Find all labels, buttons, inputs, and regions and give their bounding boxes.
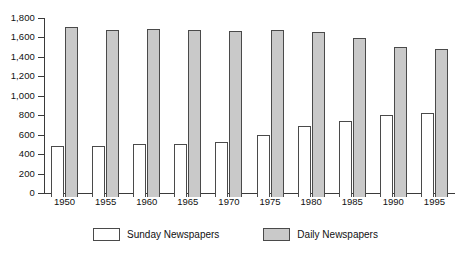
legend-label-sunday: Sunday Newspapers (127, 230, 219, 240)
bar-daily-1975 (271, 30, 284, 197)
bar-sunday-1995 (421, 113, 434, 197)
chart-legend: Sunday NewspapersDaily Newspapers (0, 228, 471, 241)
bar-sunday-1985 (339, 121, 352, 197)
bar-daily-1995 (435, 49, 448, 197)
bar-sunday-1980 (298, 126, 311, 197)
bar-daily-1965 (188, 30, 201, 197)
legend-swatch-sunday (93, 228, 120, 241)
bar-daily-1970 (229, 31, 242, 197)
bar-sunday-1970 (215, 142, 228, 197)
x-axis-label-1985: 1985 (332, 197, 373, 207)
bar-chart: 1,8001,6001,4001,2001,0008006004002000 1… (0, 0, 471, 256)
y-axis-label: 1,600 (11, 32, 35, 42)
bar-sunday-1975 (257, 135, 270, 197)
bar-sunday-1960 (133, 144, 146, 197)
legend-label-daily: Daily Newspapers (297, 230, 378, 240)
y-axis-label: 400 (19, 149, 35, 159)
x-axis-label-1965: 1965 (167, 197, 208, 207)
y-axis-label: 0 (30, 188, 35, 198)
x-axis-label-1950: 1950 (44, 197, 85, 207)
plot-area (44, 14, 455, 197)
legend-entry-sunday: Sunday Newspapers (93, 228, 219, 241)
bar-sunday-1990 (380, 115, 393, 197)
bar-sunday-1955 (92, 146, 105, 197)
bar-daily-1955 (106, 30, 119, 197)
bar-sunday-1950 (51, 146, 64, 197)
x-axis-label-1980: 1980 (291, 197, 332, 207)
y-axis-label: 1,000 (11, 91, 35, 101)
x-axis-label-1995: 1995 (414, 197, 455, 207)
y-axis-label: 200 (19, 169, 35, 179)
y-axis-label: 1,200 (11, 71, 35, 81)
x-axis-label-1990: 1990 (373, 197, 414, 207)
y-axis-label: 600 (19, 130, 35, 140)
y-axis-label: 1,800 (11, 13, 35, 23)
bar-sunday-1965 (174, 144, 187, 197)
x-axis-label-1970: 1970 (208, 197, 249, 207)
bar-daily-1985 (353, 38, 366, 197)
legend-entry-daily: Daily Newspapers (263, 228, 378, 241)
x-axis-label-1975: 1975 (250, 197, 291, 207)
bar-daily-1960 (147, 29, 160, 197)
bar-daily-1990 (394, 47, 407, 197)
legend-swatch-daily (263, 228, 290, 241)
bar-daily-1980 (312, 32, 325, 197)
y-axis-label: 800 (19, 110, 35, 120)
bar-daily-1950 (65, 27, 78, 197)
y-axis-label: 1,400 (11, 52, 35, 62)
x-axis-label-1960: 1960 (126, 197, 167, 207)
x-axis-label-1955: 1955 (85, 197, 126, 207)
